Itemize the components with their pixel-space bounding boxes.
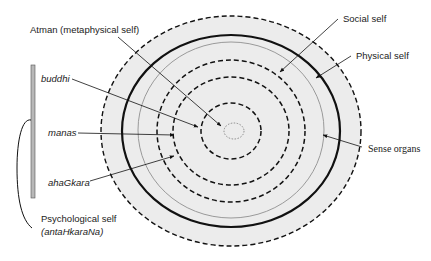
psychological-self-bar: [31, 65, 35, 198]
self-model-diagram: Atman (metaphysical self) Social self Ph…: [0, 0, 431, 261]
psychological-self-label: Psychological self: [41, 213, 117, 224]
social-self-label: Social self: [343, 13, 386, 24]
atman-label: Atman (metaphysical self): [30, 24, 139, 35]
physical-self-label: Physical self: [356, 50, 409, 61]
buddhi-label: buddhi: [41, 73, 70, 84]
psychological-self-bracket: [17, 120, 32, 228]
sense-organs-label: Sense organs: [368, 143, 420, 154]
ahagkara-label: ahaGkara: [48, 177, 90, 188]
manas-label: manas: [48, 127, 77, 138]
antahkarana-label: (antaHkaraNa): [41, 226, 103, 237]
outer-boundary-ring: [101, 16, 361, 246]
